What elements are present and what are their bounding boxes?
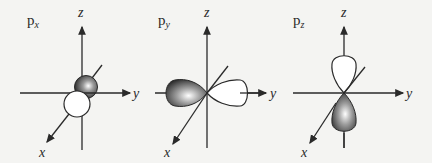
open-lobe — [64, 91, 90, 117]
y-axis-label: y — [268, 86, 277, 101]
x-axis-label: x — [163, 145, 171, 160]
y-axis-label: y — [404, 86, 413, 101]
panel-label-pz: pz — [293, 12, 305, 30]
x-axis — [47, 114, 69, 142]
panel-px: px z y x — [20, 5, 140, 160]
p-orbitals-diagram: px z y x py z y x pz z — [0, 0, 432, 163]
z-axis-label: z — [203, 5, 210, 20]
x-axis-label: x — [300, 145, 308, 160]
z-axis-label: z — [77, 5, 84, 20]
open-lobe — [332, 56, 356, 93]
z-axis-label: z — [340, 5, 347, 20]
x-axis-label: x — [38, 145, 46, 160]
panel-py: py z y x — [155, 5, 277, 160]
panel-pz: pz z y x — [293, 5, 413, 160]
panel-label-px: px — [27, 12, 40, 30]
shaded-lobe — [332, 93, 356, 131]
orbitals-svg: px z y x py z y x pz z — [0, 0, 432, 163]
y-axis-label: y — [131, 86, 140, 101]
panel-label-py: py — [158, 12, 171, 30]
